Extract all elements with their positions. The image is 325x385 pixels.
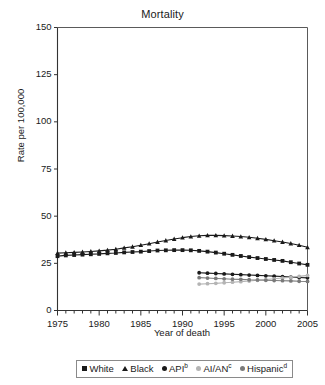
legend-item-hispanic[interactable]: Hispanicd xyxy=(240,363,288,374)
legend-label: Black xyxy=(130,363,153,374)
x-tick-label: 1980 xyxy=(79,318,119,329)
legend-marker-circle-icon xyxy=(162,366,167,371)
y-tick-label: 50 xyxy=(18,210,52,221)
chart-legend: WhiteBlackAPIbAI/ANcHispanicd xyxy=(76,360,293,378)
x-tick-label: 2005 xyxy=(288,318,325,329)
legend-marker-circle-icon xyxy=(240,366,245,371)
legend-item-white[interactable]: White xyxy=(82,363,114,374)
x-tick-label: 2000 xyxy=(246,318,286,329)
x-tick-label: 1990 xyxy=(163,318,203,329)
x-tick-label: 1975 xyxy=(38,318,78,329)
legend-marker-circle-light-icon xyxy=(196,366,201,371)
x-tick-label: 1995 xyxy=(204,318,244,329)
y-tick-label: 150 xyxy=(18,21,52,32)
axis-frame xyxy=(58,28,308,311)
legend-label: AI/ANc xyxy=(203,363,231,374)
legend-item-black[interactable]: Black xyxy=(122,363,154,374)
series-layer xyxy=(55,233,310,286)
y-tick-label: 25 xyxy=(18,257,52,268)
legend-label: APIb xyxy=(169,363,188,374)
y-tick-label: 100 xyxy=(18,115,52,126)
mortality-chart-figure: Mortality Rate per 100,000 Year of death… xyxy=(0,0,325,385)
legend-marker-triangle-icon xyxy=(122,366,128,371)
y-tick-label: 125 xyxy=(18,68,52,79)
legend-label: Hispanicd xyxy=(247,363,287,374)
legend-item-api[interactable]: APIb xyxy=(162,363,188,374)
legend-marker-square-icon xyxy=(82,366,87,371)
tick-marks xyxy=(54,28,308,316)
y-tick-label: 0 xyxy=(18,304,52,315)
legend-item-ai-an[interactable]: AI/ANc xyxy=(196,363,232,374)
x-tick-label: 1985 xyxy=(121,318,161,329)
legend-label: White xyxy=(90,363,114,374)
y-tick-label: 75 xyxy=(18,163,52,174)
